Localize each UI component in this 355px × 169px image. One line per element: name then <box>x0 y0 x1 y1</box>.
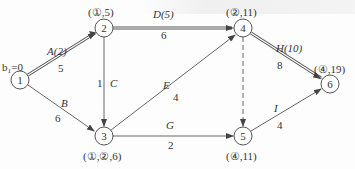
node-3-annotation: (①,②,6) <box>83 151 121 162</box>
node-2-annotation: (①,5) <box>88 7 114 18</box>
edge-I-label: I <box>274 103 278 114</box>
edge-A-label: A(2) <box>47 46 67 57</box>
edge-I-weight: 4 <box>277 120 283 131</box>
node-5-annotation: (④,11) <box>226 151 257 162</box>
edge-B-weight: 6 <box>55 113 61 124</box>
edge-A-weight: 5 <box>58 63 64 74</box>
node-6: 6 <box>321 75 339 93</box>
edge-H-label: H(10) <box>276 43 302 54</box>
network-diagram: 1 2 3 4 5 6 b₁=0 (①,5) (①,②,6) (②,11) (④… <box>0 0 355 169</box>
edge-B-label: B <box>61 98 68 109</box>
svg-text:5: 5 <box>240 130 246 142</box>
edge-E-label: E <box>163 80 170 91</box>
node-3: 3 <box>95 127 113 145</box>
edge-D <box>113 25 234 31</box>
svg-text:4: 4 <box>240 22 246 34</box>
edge-C-weight: 1 <box>97 78 103 89</box>
node-4-annotation: (②,11) <box>226 7 257 18</box>
svg-text:1: 1 <box>17 74 23 86</box>
node-4: 4 <box>234 19 252 37</box>
edge-H-weight: 8 <box>277 60 283 71</box>
node-1-annotation: b₁=0 <box>2 62 23 73</box>
edge-H <box>251 33 322 79</box>
edge-G-label: G <box>166 120 174 131</box>
edge-C-label: C <box>110 78 117 89</box>
edge-E-weight: 4 <box>173 92 179 103</box>
node-6-annotation: (④,19) <box>314 64 345 75</box>
diagram-canvas: 1 2 3 4 5 6 <box>0 0 355 169</box>
svg-text:3: 3 <box>101 130 107 142</box>
edge-E <box>111 35 235 130</box>
svg-text:6: 6 <box>327 78 333 90</box>
edge-D-label: D(5) <box>153 9 174 20</box>
edge-G-weight: 2 <box>168 140 174 151</box>
svg-text:2: 2 <box>101 22 107 34</box>
node-1: 1 <box>11 71 29 89</box>
edge-I <box>251 89 321 131</box>
node-2: 2 <box>95 19 113 37</box>
edge-D-weight: 6 <box>161 30 167 41</box>
node-5: 5 <box>234 127 252 145</box>
